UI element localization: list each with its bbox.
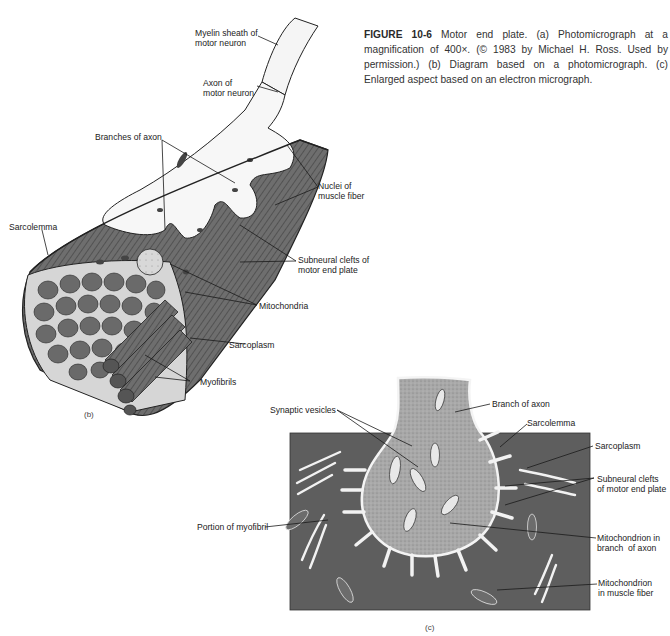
label-mitochondria: Mitochondria: [259, 301, 308, 311]
label-subneural-clefts-c: Subneural clefts of motor end plate: [597, 474, 666, 494]
label-mitochondrion-muscle: Mitochondrion in muscle fiber: [598, 578, 653, 598]
label-portion-of-myofibril: Portion of myofibril: [197, 522, 268, 532]
label-sarcolemma-c: Sarcolemma: [527, 418, 575, 428]
panel-b-tag: (b): [84, 410, 94, 419]
label-synaptic-vesicles: Synaptic vesicles: [270, 405, 336, 415]
label-axon: Axon of motor neuron: [203, 78, 254, 98]
label-myofibrils: Myofibrils: [200, 377, 236, 387]
label-branches-of-axon: Branches of axon: [95, 132, 162, 142]
label-nuclei: Nuclei of muscle fiber: [318, 181, 364, 201]
motor-end-plate-illustration: [0, 0, 670, 636]
panel-b-drawing: [23, 18, 328, 416]
label-sarcoplasm-c: Sarcoplasm: [595, 441, 640, 451]
label-sarcoplasm-b: Sarcoplasm: [229, 340, 274, 350]
label-myelin-sheath: Myelin sheath of motor neuron: [195, 28, 258, 48]
label-sarcolemma-b: Sarcolemma: [9, 222, 57, 232]
label-branch-of-axon: Branch of axon: [492, 399, 550, 409]
label-mitochondrion-axon: Mitochondrion in branch of axon: [597, 533, 660, 553]
label-subneural-clefts-b: Subneural clefts of motor end plate: [298, 255, 369, 275]
panel-c-tag: (c): [425, 623, 434, 632]
